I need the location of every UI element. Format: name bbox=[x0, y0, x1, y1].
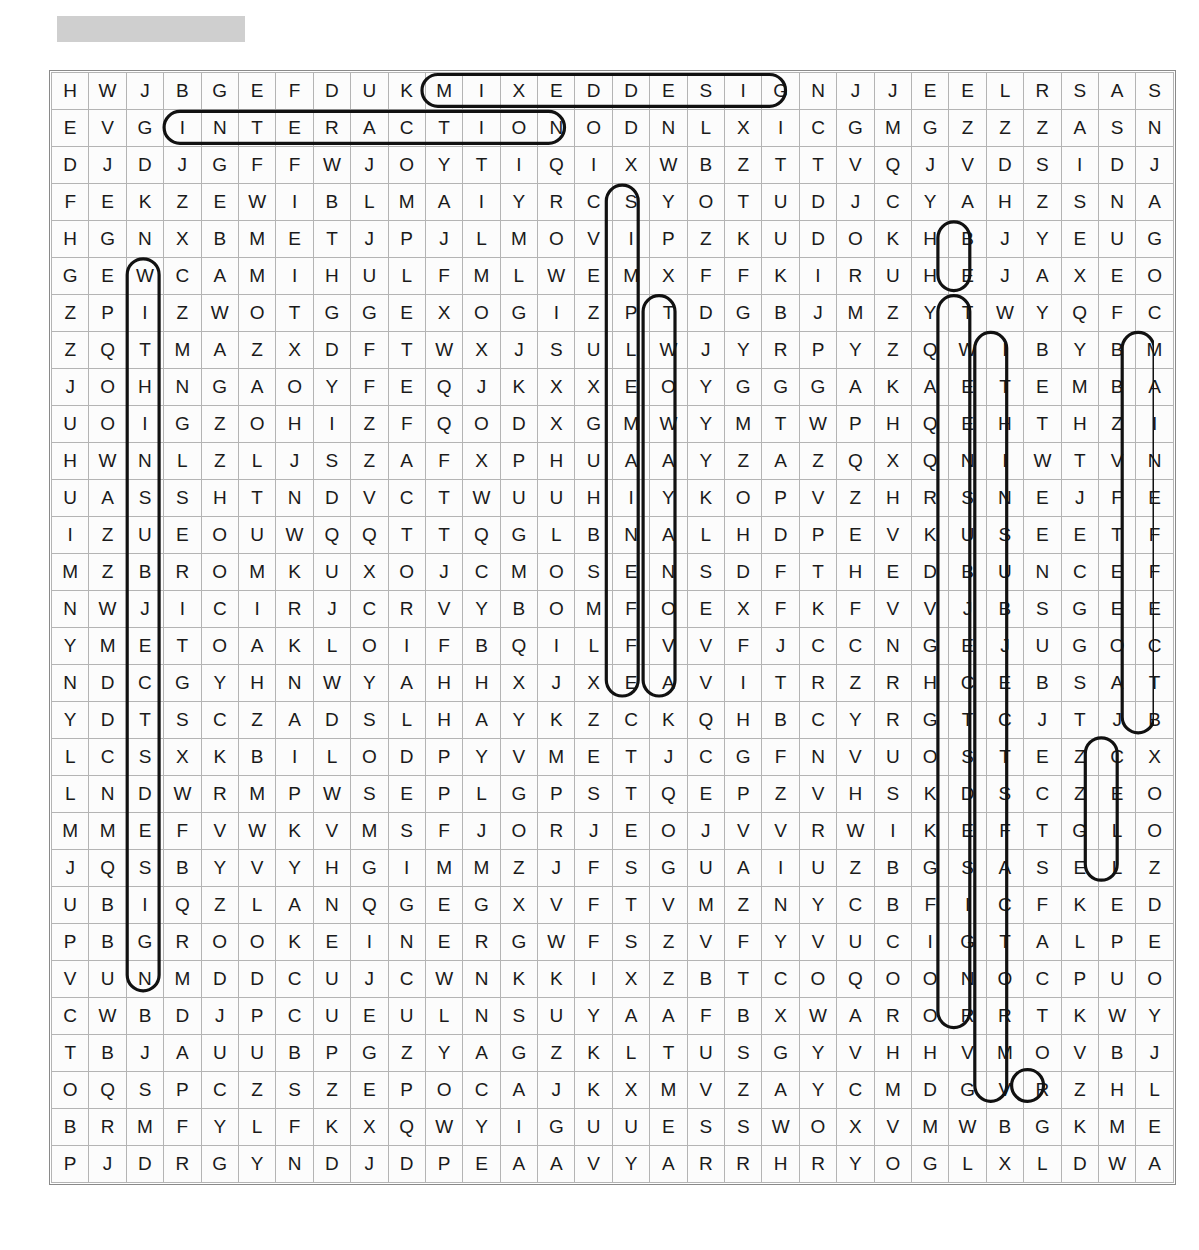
grid-cell[interactable]: N bbox=[1136, 443, 1173, 480]
grid-cell[interactable]: T bbox=[949, 702, 986, 739]
grid-cell[interactable]: L bbox=[52, 776, 89, 813]
grid-cell[interactable]: R bbox=[874, 998, 911, 1035]
grid-cell[interactable]: J bbox=[687, 332, 724, 369]
grid-cell[interactable]: D bbox=[313, 332, 350, 369]
grid-cell[interactable]: O bbox=[1136, 813, 1173, 850]
grid-cell[interactable]: P bbox=[799, 517, 836, 554]
grid-cell[interactable]: E bbox=[575, 258, 612, 295]
grid-cell[interactable]: J bbox=[986, 258, 1023, 295]
grid-cell[interactable]: T bbox=[986, 924, 1023, 961]
grid-cell[interactable]: B bbox=[874, 887, 911, 924]
grid-cell[interactable]: A bbox=[650, 1146, 687, 1183]
grid-cell[interactable]: Q bbox=[687, 702, 724, 739]
grid-cell[interactable]: O bbox=[911, 739, 948, 776]
grid-cell[interactable]: D bbox=[949, 776, 986, 813]
grid-cell[interactable]: D bbox=[612, 110, 649, 147]
grid-cell[interactable]: S bbox=[126, 850, 163, 887]
grid-cell[interactable]: E bbox=[1024, 369, 1061, 406]
grid-cell[interactable]: O bbox=[425, 1072, 462, 1109]
grid-cell[interactable]: T bbox=[126, 332, 163, 369]
grid-cell[interactable]: G bbox=[911, 628, 948, 665]
grid-cell[interactable]: O bbox=[238, 295, 275, 332]
grid-cell[interactable]: E bbox=[1061, 221, 1098, 258]
grid-cell[interactable]: M bbox=[238, 554, 275, 591]
grid-cell[interactable]: M bbox=[425, 73, 462, 110]
grid-cell[interactable]: V bbox=[799, 776, 836, 813]
grid-cell[interactable]: E bbox=[949, 406, 986, 443]
grid-cell[interactable]: O bbox=[276, 369, 313, 406]
grid-cell[interactable]: G bbox=[762, 73, 799, 110]
grid-cell[interactable]: G bbox=[89, 221, 126, 258]
grid-cell[interactable]: S bbox=[725, 1109, 762, 1146]
grid-cell[interactable]: E bbox=[1098, 776, 1135, 813]
grid-cell[interactable]: I bbox=[725, 665, 762, 702]
grid-cell[interactable]: D bbox=[575, 73, 612, 110]
grid-cell[interactable]: Z bbox=[1098, 406, 1135, 443]
grid-cell[interactable]: R bbox=[276, 591, 313, 628]
grid-cell[interactable]: J bbox=[986, 628, 1023, 665]
grid-cell[interactable]: A bbox=[986, 850, 1023, 887]
grid-cell[interactable]: F bbox=[1136, 517, 1173, 554]
grid-cell[interactable]: K bbox=[911, 813, 948, 850]
grid-cell[interactable]: D bbox=[126, 776, 163, 813]
grid-cell[interactable]: D bbox=[911, 1072, 948, 1109]
grid-cell[interactable]: G bbox=[1136, 221, 1173, 258]
grid-cell[interactable]: H bbox=[1061, 406, 1098, 443]
grid-cell[interactable]: N bbox=[1098, 184, 1135, 221]
grid-cell[interactable]: Y bbox=[687, 443, 724, 480]
grid-cell[interactable]: Z bbox=[201, 887, 238, 924]
grid-cell[interactable]: D bbox=[126, 147, 163, 184]
grid-cell[interactable]: J bbox=[463, 369, 500, 406]
grid-cell[interactable]: Z bbox=[837, 480, 874, 517]
grid-cell[interactable]: E bbox=[52, 110, 89, 147]
grid-cell[interactable]: F bbox=[762, 591, 799, 628]
grid-cell[interactable]: N bbox=[276, 1146, 313, 1183]
grid-cell[interactable]: W bbox=[276, 517, 313, 554]
grid-cell[interactable]: V bbox=[650, 887, 687, 924]
grid-cell[interactable]: N bbox=[1024, 554, 1061, 591]
grid-cell[interactable]: E bbox=[1136, 591, 1173, 628]
grid-cell[interactable]: X bbox=[575, 369, 612, 406]
grid-cell[interactable]: T bbox=[762, 665, 799, 702]
grid-cell[interactable]: D bbox=[89, 665, 126, 702]
grid-cell[interactable]: D bbox=[388, 1146, 425, 1183]
grid-cell[interactable]: E bbox=[612, 665, 649, 702]
grid-cell[interactable]: S bbox=[612, 924, 649, 961]
grid-cell[interactable]: S bbox=[575, 776, 612, 813]
grid-cell[interactable]: A bbox=[1136, 184, 1173, 221]
grid-cell[interactable]: Z bbox=[238, 1072, 275, 1109]
grid-cell[interactable]: J bbox=[1136, 147, 1173, 184]
grid-cell[interactable]: C bbox=[463, 554, 500, 591]
grid-cell[interactable]: J bbox=[650, 739, 687, 776]
grid-cell[interactable]: R bbox=[837, 258, 874, 295]
grid-cell[interactable]: M bbox=[463, 258, 500, 295]
grid-cell[interactable]: A bbox=[1098, 73, 1135, 110]
grid-cell[interactable]: M bbox=[164, 961, 201, 998]
grid-cell[interactable]: Z bbox=[52, 295, 89, 332]
grid-cell[interactable]: U bbox=[500, 480, 537, 517]
grid-cell[interactable]: H bbox=[874, 480, 911, 517]
grid-cell[interactable]: N bbox=[949, 443, 986, 480]
grid-cell[interactable]: R bbox=[538, 813, 575, 850]
grid-cell[interactable]: I bbox=[911, 924, 948, 961]
grid-cell[interactable]: I bbox=[949, 887, 986, 924]
grid-cell[interactable]: N bbox=[201, 110, 238, 147]
grid-cell[interactable]: U bbox=[52, 480, 89, 517]
grid-cell[interactable]: W bbox=[425, 1109, 462, 1146]
grid-cell[interactable]: Z bbox=[1061, 739, 1098, 776]
grid-cell[interactable]: E bbox=[986, 665, 1023, 702]
grid-cell[interactable]: H bbox=[313, 850, 350, 887]
grid-cell[interactable]: W bbox=[650, 406, 687, 443]
grid-cell[interactable]: G bbox=[351, 1035, 388, 1072]
grid-cell[interactable]: Y bbox=[650, 184, 687, 221]
grid-cell[interactable]: M bbox=[89, 628, 126, 665]
grid-cell[interactable]: M bbox=[725, 406, 762, 443]
grid-cell[interactable]: J bbox=[1098, 702, 1135, 739]
grid-cell[interactable]: J bbox=[201, 998, 238, 1035]
grid-cell[interactable]: V bbox=[762, 813, 799, 850]
grid-cell[interactable]: I bbox=[164, 110, 201, 147]
grid-cell[interactable]: Y bbox=[463, 591, 500, 628]
grid-cell[interactable]: G bbox=[725, 295, 762, 332]
grid-cell[interactable]: S bbox=[351, 776, 388, 813]
grid-cell[interactable]: G bbox=[388, 887, 425, 924]
